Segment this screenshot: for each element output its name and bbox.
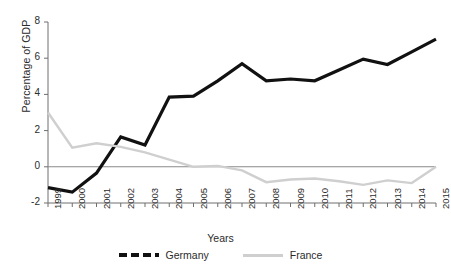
y-tick-label: 4 [14, 87, 40, 98]
x-tick-label: 2009 [295, 188, 306, 209]
y-tick-label: 2 [14, 124, 40, 135]
y-tick-label: 8 [14, 15, 40, 26]
legend-label-germany: Germany [166, 249, 209, 261]
series-line-france [48, 113, 436, 185]
x-tick-label: 2000 [76, 188, 87, 209]
legend-swatch-germany-icon [119, 253, 159, 257]
x-tick-label: 2006 [222, 188, 233, 209]
axis-layer [44, 22, 436, 207]
x-tick-label: 2004 [173, 188, 184, 209]
y-tick-label: -2 [14, 196, 40, 207]
legend-label-france: France [290, 249, 323, 261]
legend-item-germany[interactable]: Germany [119, 249, 209, 261]
legend-swatch-france-icon [243, 254, 283, 257]
x-tick-label: 2015 [440, 188, 451, 209]
x-axis-title: Years [0, 232, 441, 244]
series-layer [48, 39, 436, 192]
chart-legend: Germany France [0, 249, 441, 261]
series-line-germany [48, 39, 436, 192]
legend-item-france[interactable]: France [243, 249, 323, 261]
x-tick-label: 2013 [392, 188, 403, 209]
x-tick-label: 2010 [319, 188, 330, 209]
x-tick-label: 2007 [246, 188, 257, 209]
x-tick-label: 2005 [198, 188, 209, 209]
x-tick-label: 2012 [367, 188, 378, 209]
x-tick-label: 2003 [149, 188, 160, 209]
x-tick-label: 1999 [52, 188, 63, 209]
y-tick-label: 6 [14, 51, 40, 62]
x-tick-label: 2001 [101, 188, 112, 209]
x-tick-label: 2014 [416, 188, 427, 209]
x-tick-label: 2002 [125, 188, 136, 209]
x-tick-label: 2011 [343, 189, 354, 209]
x-tick-label: 2008 [270, 188, 281, 209]
y-tick-label: 0 [14, 160, 40, 171]
